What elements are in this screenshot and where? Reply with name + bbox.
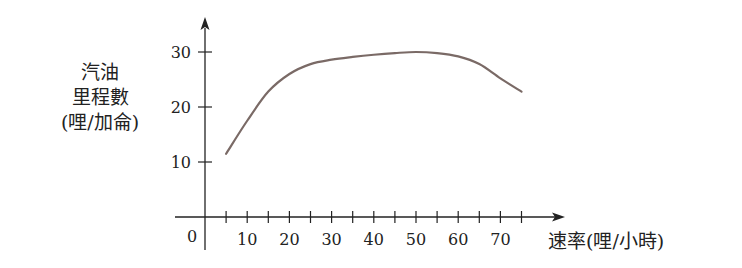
axis-ticks: 102030405060701020300	[171, 43, 522, 249]
x-tick-label: 20	[279, 230, 299, 249]
y-axis-label-line3: (哩/加侖)	[30, 110, 170, 135]
axes	[175, 17, 565, 250]
origin-label: 0	[187, 227, 197, 246]
y-tick-label: 20	[171, 98, 191, 117]
x-tick-label: 50	[406, 230, 426, 249]
mileage-curve	[226, 52, 521, 154]
x-axis-label: 速率(哩/小時)	[548, 226, 664, 253]
y-axis-label-line1: 汽油	[30, 60, 170, 85]
y-tick-label: 10	[171, 153, 191, 172]
x-tick-label: 70	[490, 230, 510, 249]
y-axis-label-line2: 里程數	[30, 85, 170, 110]
y-tick-label: 30	[171, 43, 191, 62]
y-axis-label: 汽油 里程數 (哩/加侖)	[30, 60, 170, 135]
x-tick-label: 40	[364, 230, 384, 249]
x-tick-label: 60	[448, 230, 468, 249]
x-tick-label: 10	[237, 230, 257, 249]
x-tick-label: 30	[321, 230, 341, 249]
